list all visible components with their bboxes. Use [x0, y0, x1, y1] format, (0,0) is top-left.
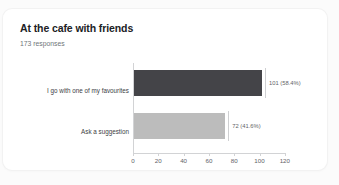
page-root: At the cafe with friends 173 responses I… — [0, 0, 339, 185]
x-axis-tick-60 — [209, 153, 210, 156]
card-header: At the cafe with friends 173 responses — [20, 22, 300, 49]
x-axis-tick-label-80: 80 — [231, 157, 238, 164]
x-axis-tick-40 — [184, 153, 185, 156]
x-axis-tick-label-100: 100 — [254, 157, 264, 164]
page-title: At the cafe with friends — [20, 22, 300, 35]
x-axis-tick-label-60: 60 — [205, 157, 212, 164]
response-count: 173 responses — [20, 39, 300, 49]
x-axis-tick-0 — [133, 153, 134, 156]
category-label-1: Ask a suggestion — [11, 128, 129, 136]
category-label-0: I go with one of my favourites — [11, 87, 129, 95]
x-axis-tick-120 — [285, 153, 286, 156]
x-axis-tick-label-40: 40 — [180, 157, 187, 164]
bar-0[interactable] — [134, 70, 262, 96]
bar-chart: I go with one of my favourites Ask a sug… — [3, 61, 327, 166]
bar-0-value-label: 101 (58.4%) — [269, 79, 301, 87]
bar-1-end-marker — [228, 111, 229, 141]
x-axis-tick-label-120: 120 — [280, 157, 290, 164]
category-axis-labels: I go with one of my favourites Ask a sug… — [11, 61, 129, 153]
x-axis-tick-80 — [234, 153, 235, 156]
x-axis-tick-20 — [158, 153, 159, 156]
bar-1[interactable] — [134, 113, 225, 139]
plot-area: 0 20 40 60 80 100 120 101 (58.4%) 72 (41… — [133, 61, 319, 166]
x-axis-tick-100 — [260, 153, 261, 156]
chart-card: At the cafe with friends 173 responses I… — [3, 9, 327, 170]
x-axis-tick-label-0: 0 — [131, 157, 134, 164]
bar-0-end-marker — [265, 68, 266, 98]
x-axis-tick-label-20: 20 — [155, 157, 162, 164]
bar-1-value-label: 72 (41.6%) — [232, 122, 260, 130]
